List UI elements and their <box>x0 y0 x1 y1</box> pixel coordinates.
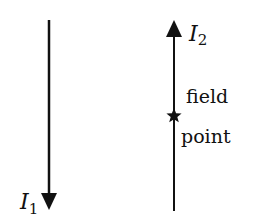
field-point-label-line2: point <box>181 125 231 147</box>
wire-1-label: I1 <box>19 189 38 218</box>
wire-2-label: I2 <box>188 21 207 49</box>
arrow-down-icon <box>41 193 57 210</box>
field-point-label-line1: field <box>186 85 228 107</box>
wire-1 <box>41 20 57 210</box>
arrow-up-icon <box>166 20 182 37</box>
two-wires-diagram: I1 I2 field point <box>0 0 268 219</box>
